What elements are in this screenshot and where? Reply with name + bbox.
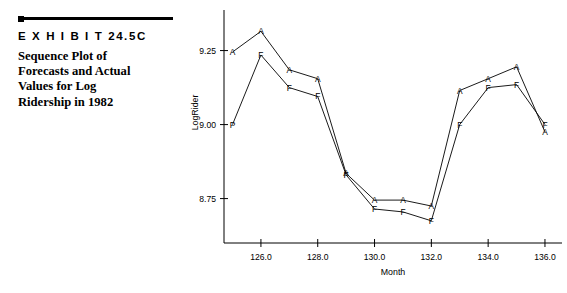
data-point-marker: F bbox=[542, 120, 547, 130]
data-point-marker: F bbox=[372, 204, 377, 214]
data-point-marker: F bbox=[258, 50, 263, 60]
y-tick-label: 8.75 bbox=[199, 194, 216, 204]
data-point-marker: A bbox=[429, 201, 435, 211]
y-tick-label: 9.00 bbox=[199, 120, 216, 130]
data-point-marker: A bbox=[230, 47, 236, 57]
x-tick-label: 130.0 bbox=[364, 252, 386, 262]
data-point-marker: F bbox=[344, 170, 349, 180]
series-line-forecast bbox=[233, 55, 546, 221]
y-axis-title: LogRider bbox=[190, 95, 200, 131]
data-point-marker: A bbox=[457, 86, 463, 96]
data-point-marker: A bbox=[400, 195, 406, 205]
exhibit-caption: Sequence Plot of Forecasts and Actual Va… bbox=[18, 49, 178, 110]
data-point-marker: A bbox=[514, 62, 520, 72]
data-point-marker: F bbox=[315, 91, 320, 101]
data-point-marker: F bbox=[429, 216, 434, 226]
caption-line-4: Ridership in 1982 bbox=[18, 95, 178, 110]
plot-canvas: 8.759.009.25 126.0128.0130.0132.0134.013… bbox=[186, 0, 567, 293]
caption-line-2: Forecasts and Actual bbox=[18, 64, 178, 79]
exhibit-figure: E X H I B I T 24.5C Sequence Plot of For… bbox=[0, 0, 567, 293]
horizontal-rule bbox=[21, 17, 173, 20]
caption-line-3: Values for Log bbox=[18, 79, 178, 94]
x-axis-ticks: 126.0128.0130.0132.0134.0136.0 bbox=[250, 239, 556, 262]
data-point-marker: F bbox=[400, 207, 405, 217]
data-point-marker: F bbox=[514, 80, 519, 90]
data-point-marker: F bbox=[486, 83, 491, 93]
data-point-marker: F bbox=[457, 120, 462, 130]
y-tick-label: 9.25 bbox=[199, 46, 216, 56]
series-group: AAAAAAAAAAAAPFFFFFFFFFFF bbox=[230, 26, 548, 225]
series-line-actual bbox=[233, 31, 546, 206]
x-axis-title: Month bbox=[381, 267, 406, 277]
data-point-marker: A bbox=[258, 26, 264, 36]
caption-line-1: Sequence Plot of bbox=[18, 49, 178, 64]
data-point-marker: A bbox=[315, 74, 321, 84]
exhibit-label: E X H I B I T 24.5C bbox=[18, 30, 178, 42]
data-point-marker: P bbox=[230, 120, 236, 130]
sequence-plot: 8.759.009.25 126.0128.0130.0132.0134.013… bbox=[186, 0, 567, 293]
data-point-marker: F bbox=[287, 83, 292, 93]
data-point-marker: A bbox=[287, 65, 293, 75]
x-tick-label: 134.0 bbox=[477, 252, 499, 262]
plot-axes bbox=[224, 10, 562, 243]
exhibit-rule bbox=[18, 14, 178, 24]
x-tick-label: 126.0 bbox=[250, 252, 272, 262]
caption-block: E X H I B I T 24.5C Sequence Plot of For… bbox=[18, 14, 178, 110]
x-tick-label: 132.0 bbox=[421, 252, 443, 262]
x-tick-label: 136.0 bbox=[534, 252, 556, 262]
x-tick-label: 128.0 bbox=[307, 252, 329, 262]
